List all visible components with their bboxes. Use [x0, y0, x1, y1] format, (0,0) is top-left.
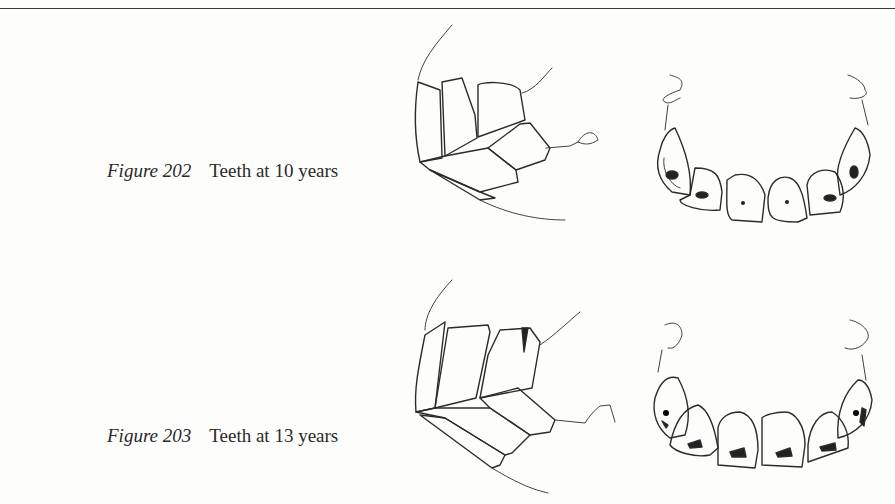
figure-203-occlusal-view: [640, 300, 890, 480]
figure-202-caption: Figure 202Teeth at 10 years: [107, 160, 338, 182]
figure-caption-text: Teeth at 13 years: [209, 425, 338, 446]
figure-202-side-view: [400, 20, 620, 230]
figure-number: Figure 202: [107, 160, 191, 181]
figure-203-side-view: [400, 270, 620, 500]
figure-caption-text: Teeth at 10 years: [209, 160, 338, 181]
header-rule: [0, 8, 895, 9]
figure-number: Figure 203: [107, 425, 191, 446]
figure-203-caption: Figure 203Teeth at 13 years: [107, 425, 338, 447]
figure-202-occlusal-view: [640, 50, 890, 230]
